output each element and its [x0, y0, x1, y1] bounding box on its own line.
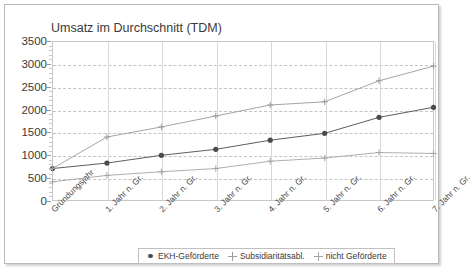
data-point: [104, 134, 110, 140]
y-tick-mark: [47, 178, 51, 179]
y-minor-tick: [49, 46, 52, 47]
y-tick-mark: [47, 132, 51, 133]
y-minor-tick: [49, 169, 52, 170]
y-minor-tick: [49, 123, 52, 124]
legend-item: Subsidiaritätsabl.: [228, 251, 305, 261]
series-layer: [5, 5, 440, 265]
y-minor-tick: [49, 164, 52, 165]
data-point: [213, 147, 218, 152]
y-minor-tick: [49, 96, 52, 97]
data-point: [213, 165, 219, 171]
y-minor-tick: [49, 183, 52, 184]
data-point: [104, 160, 109, 165]
data-point: [376, 115, 381, 120]
legend-label: nicht Geförderte: [326, 251, 387, 261]
y-minor-tick: [49, 174, 52, 175]
chart-legend: EKH-GeförderteSubsidiaritätsabl.nicht Ge…: [138, 248, 395, 264]
y-minor-tick: [49, 119, 52, 120]
data-point: [268, 138, 273, 143]
y-minor-tick: [49, 187, 52, 188]
filled-circle-marker-icon: [146, 252, 155, 261]
y-minor-tick: [49, 78, 52, 79]
plus-marker-icon: [228, 252, 237, 261]
y-tick-mark: [47, 110, 51, 111]
star-marker-icon: [314, 252, 323, 261]
y-minor-tick: [49, 114, 52, 115]
data-point: [376, 78, 382, 84]
y-minor-tick: [49, 146, 52, 147]
data-point: [430, 63, 436, 69]
y-tick-mark: [47, 64, 51, 65]
y-minor-tick: [49, 196, 52, 197]
data-point: [321, 155, 327, 161]
y-minor-tick: [49, 100, 52, 101]
y-minor-tick: [49, 128, 52, 129]
data-point: [322, 131, 327, 136]
data-point: [267, 102, 273, 108]
data-point: [158, 124, 164, 130]
y-minor-tick: [49, 160, 52, 161]
y-minor-tick: [49, 73, 52, 74]
data-point: [430, 150, 436, 156]
legend-label: EKH-Geförderte: [158, 251, 219, 261]
data-point: [376, 149, 382, 155]
y-minor-tick: [49, 82, 52, 83]
data-point: [321, 99, 327, 105]
y-minor-tick: [49, 91, 52, 92]
series-line: [53, 153, 434, 182]
y-minor-tick: [49, 137, 52, 138]
y-minor-tick: [49, 59, 52, 60]
series-line: [53, 107, 434, 168]
y-tick-mark: [47, 155, 51, 156]
legend-label: Subsidiaritätsabl.: [240, 251, 305, 261]
y-minor-tick: [49, 105, 52, 106]
y-minor-tick: [49, 192, 52, 193]
y-minor-tick: [49, 142, 52, 143]
y-minor-tick: [49, 68, 52, 69]
y-tick-mark: [47, 41, 51, 42]
legend-item: EKH-Geförderte: [146, 251, 219, 261]
legend-item: nicht Geförderte: [314, 251, 387, 261]
y-tick-mark: [47, 201, 51, 202]
y-tick-mark: [47, 87, 51, 88]
y-minor-tick: [49, 151, 52, 152]
chart-figure: Umsatz im Durchschnitt (TDM) 05001000150…: [4, 4, 439, 264]
y-minor-tick: [49, 55, 52, 56]
data-point: [431, 105, 436, 110]
data-point: [104, 172, 110, 178]
data-point: [213, 113, 219, 119]
data-point: [267, 158, 273, 164]
data-point: [158, 169, 164, 175]
data-point: [159, 153, 164, 158]
y-minor-tick: [49, 50, 52, 51]
